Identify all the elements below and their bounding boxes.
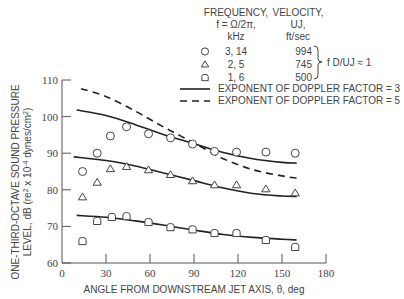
triangle-marker <box>106 165 114 172</box>
circle-marker <box>211 147 219 155</box>
y-tick-label: 100 <box>42 111 59 123</box>
x-tick-label: 0 <box>59 267 65 279</box>
x-tick-label: 150 <box>274 267 291 279</box>
legend-velocity-value: 500 <box>295 72 312 83</box>
x-tick-label: 60 <box>145 267 157 279</box>
svg-text:ONE-THIRD-OCTAVE SOUND PRESSUR: ONE-THIRD-OCTAVE SOUND PRESSURE <box>10 84 21 280</box>
legend-velocity-header: ft/sec <box>286 31 310 42</box>
triangle-marker <box>262 185 270 192</box>
doppler-spl-chart: 607080901001100306090120150180 ONE-THIRD… <box>0 0 404 299</box>
y-tick-label: 90 <box>47 147 59 159</box>
circle-marker <box>123 123 131 131</box>
legend-brace <box>314 46 322 79</box>
rounded-square-marker <box>123 213 130 220</box>
circle-marker <box>233 148 241 156</box>
legend-frequency-value: 3, 14 <box>225 46 248 57</box>
rounded-square-marker <box>167 224 174 231</box>
y-tick-label: 80 <box>47 184 59 196</box>
rounded-square-marker <box>202 74 208 80</box>
legend-line-label: EXPONENT OF DOPPLER FACTOR = 3 <box>218 83 401 94</box>
circle-marker <box>262 148 270 156</box>
legend-line-label: EXPONENT OF DOPPLER FACTOR = 5 <box>218 95 401 106</box>
rounded-square-marker <box>292 243 299 250</box>
rounded-square-marker <box>189 226 196 233</box>
circle-marker <box>201 48 208 55</box>
y-tick-label: 60 <box>47 257 59 269</box>
legend-frequency-header: f = Ω/2π, <box>216 19 256 30</box>
rounded-square-marker <box>233 229 240 236</box>
circle-marker <box>93 149 101 157</box>
legend-frequency-value: 2, 5 <box>228 59 245 70</box>
legend-velocity-header: VELOCITY, <box>273 7 324 18</box>
circle-marker <box>106 132 114 140</box>
legend-velocity-value: 994 <box>295 46 312 57</box>
legend: FREQUENCY,f = Ω/2π,kHzVELOCITY,UJ,ft/sec… <box>180 7 401 106</box>
y-tick-label: 70 <box>47 220 59 232</box>
x-tick-label: 120 <box>230 267 247 279</box>
x-tick-label: 30 <box>101 267 113 279</box>
legend-frequency-value: 1, 6 <box>228 72 245 83</box>
rounded-square-marker <box>145 218 152 225</box>
triangle-marker <box>78 193 86 200</box>
rounded-square-marker <box>108 213 115 220</box>
y-tick-label: 110 <box>42 74 59 86</box>
data-points <box>78 123 299 251</box>
x-tick-label: 90 <box>189 267 201 279</box>
model-curves <box>74 89 297 240</box>
triangle-marker <box>93 178 101 185</box>
y-axis-label: ONE-THIRD-OCTAVE SOUND PRESSURE LEVEL, d… <box>10 84 33 280</box>
x-tick-label: 180 <box>318 267 335 279</box>
x-axis-label: ANGLE FROM DOWNSTREAM JET AXIS, θ, deg <box>84 284 305 295</box>
circle-marker <box>291 149 299 157</box>
legend-brace-label: f D/UJ ≈ 1 <box>327 57 372 68</box>
triangle-marker <box>291 189 299 196</box>
circle-marker <box>145 130 153 138</box>
rounded-square-marker <box>262 236 269 243</box>
rounded-square-marker <box>94 217 101 224</box>
circle-marker <box>167 134 175 142</box>
y-axis-label-units: LEVEL, dB (re2 x 10-4 dynes/cm2) <box>22 108 34 257</box>
triangle-marker <box>201 61 208 67</box>
legend-frequency-header: FREQUENCY, <box>204 7 268 18</box>
circle-marker <box>79 168 87 176</box>
legend-frequency-header: kHz <box>227 31 244 42</box>
circle-marker <box>189 140 197 148</box>
legend-velocity-header: UJ, <box>291 19 306 30</box>
triangle-marker <box>232 181 240 188</box>
rounded-square-marker <box>79 237 86 244</box>
rounded-square-marker <box>211 229 218 236</box>
legend-velocity-value: 745 <box>295 59 312 70</box>
